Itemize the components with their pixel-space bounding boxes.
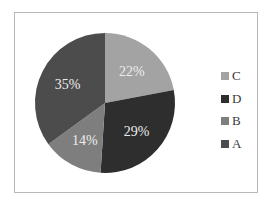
legend-swatch-a (221, 140, 229, 148)
pie-slices (35, 33, 175, 173)
legend-item-c: C (221, 65, 241, 88)
legend-label-c: C (232, 68, 241, 84)
legend-label-d: D (232, 91, 241, 107)
pie-label-a: 35% (55, 77, 81, 92)
legend-swatch-d (221, 95, 229, 103)
legend: C D B A (221, 65, 241, 155)
legend-swatch-c (221, 72, 229, 80)
legend-swatch-b (221, 117, 229, 125)
legend-label-b: B (232, 113, 241, 129)
legend-item-d: D (221, 88, 241, 111)
legend-item-b: B (221, 110, 241, 133)
legend-item-a: A (221, 133, 241, 156)
pie-label-c: 22% (119, 64, 145, 79)
pie-label-b: 14% (72, 133, 98, 148)
pie-label-d: 29% (124, 124, 150, 139)
legend-label-a: A (232, 136, 241, 152)
